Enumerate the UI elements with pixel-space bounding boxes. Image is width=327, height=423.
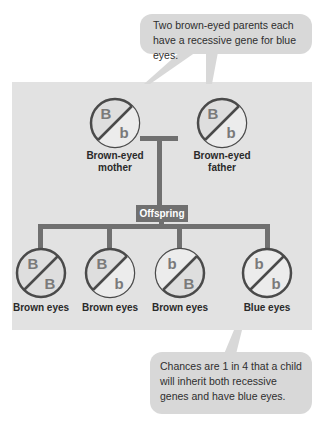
probability-callout-text: Chances are 1 in 4 that a child will inh…	[160, 360, 302, 402]
top-callout-pointer-right	[206, 52, 218, 84]
child-drop-3	[177, 224, 182, 248]
child-drop-2	[107, 224, 112, 248]
child-drop-4	[265, 224, 270, 248]
child-3-allele-1: b	[167, 256, 176, 271]
child-1-label: Brown eyes	[13, 302, 69, 314]
child-4-allele-2: b	[271, 276, 280, 291]
child-1-allele-2: B	[45, 276, 56, 291]
child-1-allele-1: B	[28, 256, 39, 271]
father-allele-1: B	[208, 106, 219, 121]
mother-allele-1: B	[101, 106, 112, 121]
father-label: Brown-eyed father	[193, 150, 250, 174]
child-3-allele-2: B	[184, 276, 195, 291]
child-drop-1	[38, 224, 43, 248]
child-gene-circle-3	[156, 249, 204, 297]
child-gene-circle-4	[243, 249, 291, 297]
child-gene-circle-2	[86, 249, 134, 297]
probability-callout: Chances are 1 in 4 that a child will inh…	[150, 352, 312, 414]
father-allele-2: b	[226, 125, 235, 140]
offspring-bar	[38, 224, 270, 229]
parents-callout: Two brown-eyed parents each have a reces…	[140, 14, 312, 54]
child-2-label: Brown eyes	[82, 302, 138, 314]
child-2-allele-1: B	[97, 256, 108, 271]
parents-stem	[157, 136, 162, 206]
child-gene-circle-1	[17, 249, 65, 297]
father-gene-circle	[198, 99, 246, 147]
child-3-label: Brown eyes	[152, 302, 208, 314]
mother-label: Brown-eyed mother	[86, 150, 143, 174]
mother-allele-2: b	[119, 125, 128, 140]
bottom-callout-pointer	[224, 330, 242, 354]
offspring-label: Offspring	[136, 205, 188, 222]
child-4-allele-1: b	[254, 256, 263, 271]
mother-gene-circle	[91, 99, 139, 147]
child-4-label: Blue eyes	[244, 302, 291, 314]
child-2-allele-2: b	[114, 276, 123, 291]
